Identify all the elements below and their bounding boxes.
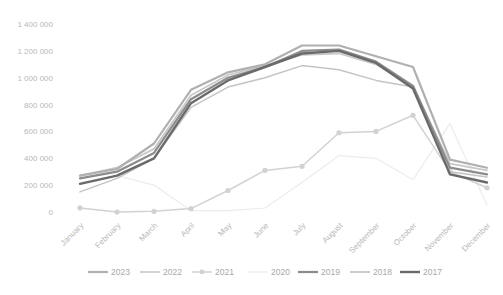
- legend-label: 2020: [271, 267, 290, 277]
- x-tick-label: March: [137, 221, 159, 243]
- data-point-marker: [114, 209, 119, 214]
- series-2021: [77, 113, 489, 215]
- legend-label: 2017: [423, 267, 442, 277]
- legend-label: 2023: [111, 267, 130, 277]
- x-tick-label: July: [291, 221, 307, 237]
- legend-label: 2021: [215, 267, 234, 277]
- x-tick-label: April: [179, 221, 197, 239]
- series-2020: [80, 123, 487, 210]
- y-tick-label: 1 200 000: [17, 47, 53, 56]
- data-point-marker: [410, 113, 415, 118]
- y-tick-label: 1 000 000: [17, 74, 53, 83]
- legend-item-2023[interactable]: 2023: [88, 267, 130, 277]
- legend-item-2017[interactable]: 2017: [400, 267, 442, 277]
- y-tick-label: 0: [49, 208, 54, 217]
- data-point-marker: [484, 185, 489, 190]
- data-point-marker: [77, 205, 82, 210]
- x-tick-label: October: [392, 221, 419, 248]
- data-point-marker: [262, 168, 267, 173]
- legend-label: 2022: [163, 267, 182, 277]
- y-tick-label: 600 000: [24, 127, 53, 136]
- y-tick-label: 400 000: [24, 154, 53, 163]
- legend: 2023202220212020201920182017: [88, 267, 442, 277]
- line-chart: 0200 000400 000600 000800 0001 000 0001 …: [0, 0, 503, 295]
- legend-item-2019[interactable]: 2019: [298, 267, 340, 277]
- series-line: [80, 123, 487, 210]
- data-point-marker: [151, 209, 156, 214]
- x-tick-label: May: [216, 221, 233, 238]
- legend-item-2020[interactable]: 2020: [248, 267, 290, 277]
- x-tick-label: February: [93, 221, 122, 250]
- data-point-marker: [299, 164, 304, 169]
- x-tick-label: November: [423, 221, 456, 254]
- data-point-marker: [225, 188, 230, 193]
- series-line: [80, 66, 487, 192]
- legend-label: 2019: [321, 267, 340, 277]
- y-tick-label: 200 000: [24, 181, 53, 190]
- series-line: [80, 51, 487, 184]
- legend-item-2021[interactable]: 2021: [192, 267, 234, 277]
- legend-item-2018[interactable]: 2018: [350, 267, 392, 277]
- x-tick-label: June: [252, 221, 271, 240]
- chart-canvas: 0200 000400 000600 000800 0001 000 0001 …: [0, 0, 503, 295]
- legend-label: 2018: [373, 267, 392, 277]
- series-2017: [80, 51, 487, 184]
- data-point-marker: [188, 206, 193, 211]
- x-tick-label: August: [320, 221, 345, 246]
- legend-marker-icon: [200, 270, 205, 275]
- data-point-marker: [336, 130, 341, 135]
- data-point-marker: [373, 129, 378, 134]
- series-layer: [77, 46, 489, 215]
- legend-item-2022[interactable]: 2022: [140, 267, 182, 277]
- y-axis: 0200 000400 000600 000800 0001 000 0001 …: [17, 20, 53, 217]
- series-2022: [80, 66, 487, 192]
- y-tick-label: 1 400 000: [17, 20, 53, 29]
- y-tick-label: 800 000: [24, 101, 53, 110]
- x-tick-label: January: [59, 221, 85, 247]
- x-tick-label: September: [347, 221, 381, 255]
- x-axis: JanuaryFebruaryMarchAprilMayJuneJulyAugu…: [59, 221, 493, 256]
- x-tick-label: December: [460, 221, 493, 254]
